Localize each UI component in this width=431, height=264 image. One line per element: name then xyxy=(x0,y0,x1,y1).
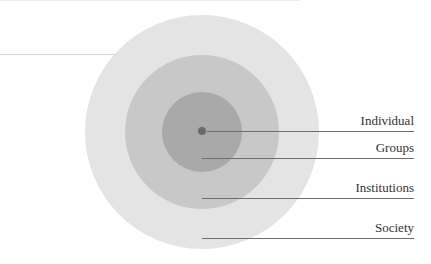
society-leader-line xyxy=(202,238,414,239)
individual-label: Individual xyxy=(361,113,414,129)
top-faint-rule xyxy=(0,0,300,1)
groups-leader-line xyxy=(202,158,414,159)
society-label: Society xyxy=(375,220,414,236)
institutions-label: Institutions xyxy=(355,180,414,196)
groups-label: Groups xyxy=(376,140,414,156)
institutions-leader-line xyxy=(202,198,414,199)
individual-leader-line xyxy=(207,131,414,132)
individual-dot xyxy=(198,127,206,135)
